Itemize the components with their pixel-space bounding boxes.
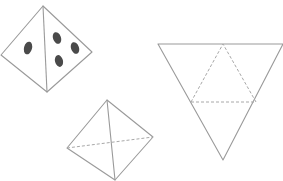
tetrahedron-diagram bbox=[0, 0, 283, 181]
net-outer-triangle bbox=[158, 44, 283, 160]
tetrahedron-front-edge bbox=[43, 6, 47, 92]
tetrahedron-front-edge bbox=[107, 100, 115, 180]
dot-icon bbox=[22, 41, 33, 56]
dot-icon bbox=[54, 54, 65, 68]
dot-icon bbox=[51, 31, 63, 45]
tetrahedron-net bbox=[158, 44, 283, 160]
tetrahedron-hidden-edge bbox=[67, 137, 153, 148]
tetrahedron-with-dots bbox=[1, 6, 92, 92]
net-fold-lines bbox=[191, 44, 256, 102]
tetrahedron-plain bbox=[67, 100, 153, 180]
tetrahedron-outline bbox=[67, 100, 153, 180]
dot-icon bbox=[69, 41, 81, 55]
